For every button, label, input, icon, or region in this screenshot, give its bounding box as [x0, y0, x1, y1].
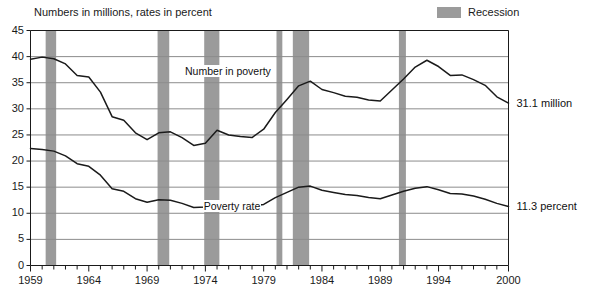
x-axis-label: 1969: [122, 275, 172, 286]
y-axis-label: 15: [0, 181, 24, 192]
y-axis-label: 45: [0, 25, 24, 36]
x-axis-label: 1989: [355, 275, 405, 286]
y-axis-label: 40: [0, 51, 24, 62]
y-axis-label: 35: [0, 77, 24, 88]
y-axis-label: 5: [0, 233, 24, 244]
y-axis-label: 30: [0, 103, 24, 114]
x-axis-label: 1974: [180, 275, 230, 286]
series-label-poverty-rate: Poverty rate: [203, 200, 262, 212]
poverty-chart-figure: Numbers in millions, rates in percent Re…: [0, 0, 589, 306]
y-axis-label: 10: [0, 207, 24, 218]
end-value-poverty-rate: 11.3 percent: [517, 200, 577, 212]
x-axis-label: 1984: [297, 275, 347, 286]
x-axis-label: 2000: [484, 275, 534, 286]
x-axis-label: 1959: [6, 275, 56, 286]
x-axis-label: 1979: [239, 275, 289, 286]
plot-area: [0, 0, 589, 306]
series-label-number-in-poverty: Number in poverty: [184, 65, 272, 77]
y-axis-label: 25: [0, 129, 24, 140]
recession-band: [158, 31, 170, 266]
recession-band: [46, 31, 56, 266]
x-axis-label: 1994: [414, 275, 464, 286]
y-axis-label: 20: [0, 155, 24, 166]
recession-band: [293, 31, 309, 266]
recession-band: [399, 31, 406, 266]
recession-band: [276, 31, 282, 266]
series-line-poverty-rate: [31, 149, 509, 208]
end-value-number-in-poverty: 31.1 million: [517, 97, 573, 109]
y-axis-label: 0: [0, 260, 24, 271]
x-axis-label: 1964: [64, 275, 114, 286]
